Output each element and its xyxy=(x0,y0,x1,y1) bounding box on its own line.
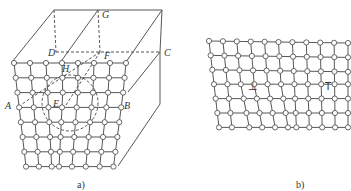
label-d: D xyxy=(47,47,56,58)
label-b: B xyxy=(124,100,130,111)
edge-dislocation-negative-symbol: T xyxy=(324,81,332,92)
figure-a-lattice xyxy=(11,60,128,169)
label-f: F xyxy=(103,50,111,61)
edge-dislocation-positive-symbol: ⊥ xyxy=(248,80,258,93)
label-a: A xyxy=(4,100,12,111)
label-e: E xyxy=(52,98,59,109)
figure-a-labels: G D C F H E A B a) xyxy=(4,9,171,191)
label-h: H xyxy=(61,63,70,74)
caption-a: a) xyxy=(77,179,85,191)
diagram-canvas: G D C F H E A B a) ⊥ T b) xyxy=(0,0,351,191)
label-c: C xyxy=(164,47,171,58)
caption-b: b) xyxy=(296,179,304,191)
figure-a-block xyxy=(12,10,162,166)
label-g: G xyxy=(102,9,109,20)
